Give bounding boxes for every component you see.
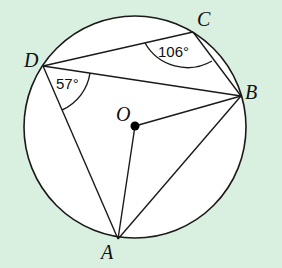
label-point-O: O bbox=[116, 104, 130, 124]
label-point-B: B bbox=[245, 82, 257, 102]
angle-label-ADB: 57° bbox=[56, 76, 79, 91]
label-point-A: A bbox=[101, 242, 113, 262]
label-point-C: C bbox=[197, 9, 210, 29]
center-point-O bbox=[131, 122, 140, 131]
angle-label-BCD: 106° bbox=[158, 44, 189, 59]
circle-diagram bbox=[0, 0, 282, 268]
label-point-D: D bbox=[24, 50, 38, 70]
